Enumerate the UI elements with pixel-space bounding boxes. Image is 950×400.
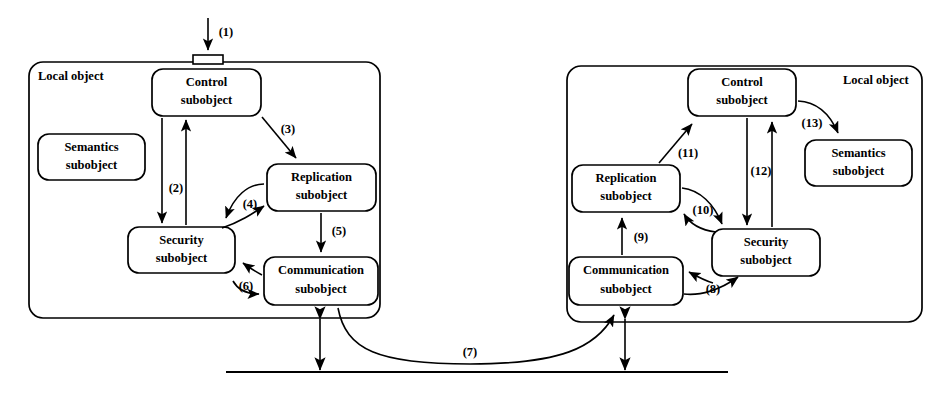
left-control-label-line2: subobject [181, 93, 233, 107]
left-replication-subobject[interactable]: Replication subobject [267, 164, 376, 211]
flow-label-7: (7) [463, 345, 478, 359]
flow-label-4: (4) [243, 197, 258, 211]
flow-label-10: (10) [693, 203, 714, 217]
right-control-label-line2: subobject [716, 93, 768, 107]
flow-label-8: (8) [706, 282, 721, 296]
flow-label-5: (5) [332, 224, 347, 238]
left-security-label-line1: Security [159, 233, 204, 247]
right-semantics-label-line2: subobject [833, 164, 885, 178]
left-local-object-panel: Local object Control subobject Semantics… [29, 55, 380, 318]
right-security-label-line2: subobject [740, 253, 792, 267]
left-communication-label-line2: subobject [295, 282, 347, 296]
diagram-svg: Local object Control subobject Semantics… [0, 0, 950, 400]
right-semantics-subobject[interactable]: Semantics subobject [805, 140, 912, 186]
right-local-object-panel: Local object Control subobject Semantics… [567, 66, 922, 322]
left-control-notch [193, 55, 223, 64]
left-panel-label: Local object [38, 69, 104, 83]
left-control-subobject[interactable]: Control subobject [152, 69, 261, 116]
flow-label-1: (1) [219, 25, 234, 39]
flow-label-13: (13) [802, 116, 823, 130]
flow-label-9: (9) [634, 230, 649, 244]
right-replication-subobject[interactable]: Replication subobject [572, 165, 680, 212]
left-semantics-subobject[interactable]: Semantics subobject [38, 134, 145, 180]
right-panel-label: Local object [843, 73, 909, 87]
right-replication-label-line2: subobject [600, 189, 652, 203]
left-communication-subobject[interactable]: Communication subobject [264, 257, 378, 305]
right-semantics-label-line1: Semantics [831, 146, 885, 160]
flow-label-12: (12) [751, 164, 772, 178]
right-security-subobject[interactable]: Security subobject [712, 229, 820, 276]
flow-label-6: (6) [239, 279, 254, 293]
right-security-label-line1: Security [744, 235, 789, 249]
left-control-label-line1: Control [186, 75, 228, 89]
left-semantics-label-line2: subobject [66, 158, 118, 172]
right-replication-label-line1: Replication [595, 171, 656, 185]
right-communication-label-line2: subobject [600, 282, 652, 296]
right-control-label-line1: Control [721, 75, 763, 89]
flow-label-2: (2) [169, 181, 184, 195]
left-semantics-label-line1: Semantics [64, 140, 118, 154]
figure-canvas: Local object Control subobject Semantics… [0, 0, 950, 400]
right-communication-label-line1: Communication [583, 263, 669, 277]
left-security-subobject[interactable]: Security subobject [128, 227, 235, 273]
flow-label-3: (3) [281, 122, 296, 136]
left-replication-label-line1: Replication [291, 170, 352, 184]
flow-label-11: (11) [678, 146, 698, 160]
left-replication-label-line2: subobject [296, 188, 348, 202]
left-communication-label-line1: Communication [278, 263, 364, 277]
arrow-flow-6-left [243, 263, 262, 275]
left-security-label-line2: subobject [156, 251, 208, 265]
right-communication-subobject[interactable]: Communication subobject [569, 257, 683, 305]
right-control-subobject[interactable]: Control subobject [688, 69, 796, 116]
